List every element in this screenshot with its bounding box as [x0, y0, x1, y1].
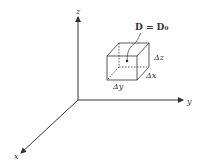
- leader-line: [127, 33, 141, 61]
- delta-y-label: Δy: [113, 83, 123, 91]
- z-axis-label: z: [76, 8, 80, 16]
- x-axis: [21, 100, 78, 153]
- delta-x-label: Δx: [146, 72, 156, 80]
- y-axis-label: y: [187, 98, 192, 106]
- x-axis-label: x: [14, 153, 19, 161]
- equation-label: D = D₀: [135, 23, 168, 32]
- delta-z-label: Δz: [154, 54, 164, 62]
- coordinate-diagram: [0, 0, 201, 168]
